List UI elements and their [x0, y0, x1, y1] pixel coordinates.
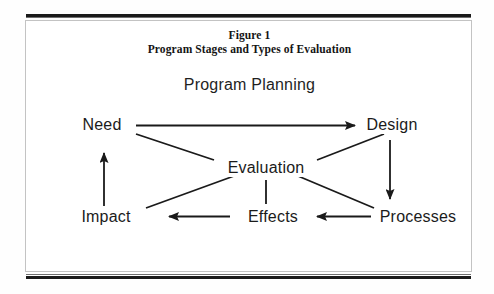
edge-evaluation-to-impact — [146, 176, 234, 208]
bottom-rule-hairline — [26, 274, 471, 275]
node-need: Need — [79, 116, 124, 134]
edge-need-to-evaluation — [136, 134, 214, 160]
edge-evaluation-to-processes — [298, 176, 374, 208]
figure-box: Figure 1 Program Stages and Types of Eva… — [25, 20, 472, 272]
node-effects: Effects — [245, 208, 301, 226]
node-processes: Processes — [377, 208, 460, 226]
diagram-arrows — [26, 21, 473, 273]
bottom-rule — [26, 276, 471, 279]
evaluation-flow-diagram: Need Design Evaluation Impact Effects Pr… — [26, 21, 473, 273]
node-impact: Impact — [78, 208, 133, 226]
node-evaluation: Evaluation — [225, 159, 308, 177]
figure-page: Figure 1 Program Stages and Types of Eva… — [0, 0, 494, 294]
edge-evaluation-to-design — [317, 134, 384, 160]
top-rule-hairline — [26, 17, 471, 18]
node-design: Design — [363, 116, 420, 134]
